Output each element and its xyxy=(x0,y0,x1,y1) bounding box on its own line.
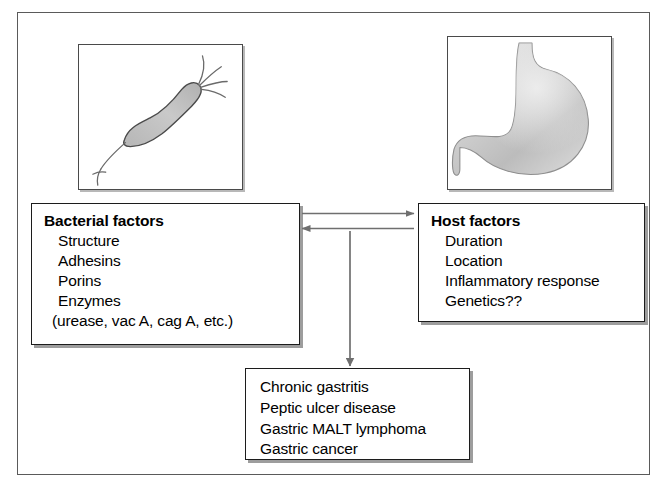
list-item: Inflammatory response xyxy=(431,271,634,291)
clinical-outcomes-box: Chronic gastritis Peptic ulcer disease G… xyxy=(245,368,470,460)
list-item: (urease, vac A, cag A, etc.) xyxy=(44,311,289,331)
figure-root: Bacterial factors Structure Adhesins Por… xyxy=(0,0,672,491)
stomach-organ-icon xyxy=(448,37,611,189)
list-item: Duration xyxy=(431,231,634,251)
clinical-outcomes-list: Chronic gastritis Peptic ulcer disease G… xyxy=(258,377,459,460)
list-item: Peptic ulcer disease xyxy=(258,398,459,419)
bacterium-illustration-panel xyxy=(78,44,243,190)
list-item: Location xyxy=(431,251,634,271)
list-item: Gastric cancer xyxy=(258,439,459,460)
list-item: Chronic gastritis xyxy=(258,377,459,398)
list-item: Gastric MALT lymphoma xyxy=(258,419,459,440)
bacterial-factors-box: Bacterial factors Structure Adhesins Por… xyxy=(31,203,300,345)
host-factors-box: Host factors Duration Location Inflammat… xyxy=(418,203,645,322)
bacterial-factors-list: Structure Adhesins Porins Enzymes (ureas… xyxy=(44,231,289,331)
list-item: Adhesins xyxy=(44,251,289,271)
list-item: Structure xyxy=(44,231,289,251)
bacterial-factors-title: Bacterial factors xyxy=(44,211,289,231)
list-item: Porins xyxy=(44,271,289,291)
list-item: Enzymes xyxy=(44,291,289,311)
stomach-illustration-panel xyxy=(447,36,612,190)
list-item: Genetics?? xyxy=(431,291,634,311)
host-factors-title: Host factors xyxy=(431,211,634,231)
helicobacter-bacterium-icon xyxy=(79,45,242,189)
host-factors-list: Duration Location Inflammatory response … xyxy=(431,231,634,311)
